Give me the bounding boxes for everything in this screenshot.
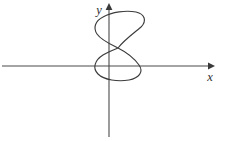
coordinate-figure: y x <box>0 0 228 141</box>
curve-group <box>95 11 145 81</box>
x-axis-label: x <box>206 70 213 84</box>
x-axis-arrowhead <box>208 62 215 69</box>
figure-container: y x <box>0 0 228 141</box>
y-axis-group <box>106 3 113 137</box>
figure-eight-curve <box>95 11 145 81</box>
y-axis-label: y <box>94 3 102 17</box>
y-axis-arrowhead <box>106 3 113 10</box>
